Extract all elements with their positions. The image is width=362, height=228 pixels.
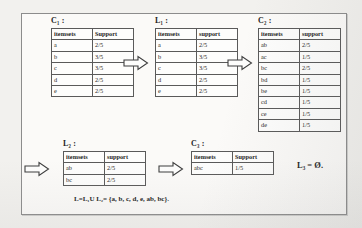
table-row: de1/5 [259, 120, 341, 131]
header-support: Support [93, 29, 134, 40]
cell-support: 2/5 [197, 74, 238, 85]
header-itemsets: itemsets [192, 152, 233, 163]
cell-support: 2/5 [93, 74, 134, 85]
header-support: support [105, 152, 146, 163]
group-c2: C₂ : itemsetssupportab2/5ac1/5bc2/5bd1/5… [258, 17, 341, 132]
cell-itemset: de [259, 120, 300, 131]
label-c1: C₁ : [51, 17, 134, 25]
cell-itemset: ac [259, 51, 300, 62]
cell-support: 2/5 [300, 63, 341, 74]
header-itemsets: itemsets [52, 29, 93, 40]
table-header-row: itemsetsSupport [52, 29, 134, 40]
cell-itemset: cd [259, 97, 300, 108]
cell-support: 1/5 [300, 108, 341, 119]
table-header-row: itemsetssupport [259, 29, 341, 40]
table-row: ac1/5 [259, 51, 341, 62]
table-l2-body: itemsetssupportab2/5bc2/5 [64, 152, 146, 186]
cell-itemset: bd [259, 74, 300, 85]
cell-support: 2/5 [197, 40, 238, 51]
table-row: abc1/5 [192, 163, 274, 174]
cell-support: 1/5 [300, 120, 341, 131]
label-c2: C₂ : [258, 17, 341, 25]
table-row: ab2/5 [64, 163, 146, 174]
cell-support: 2/5 [93, 86, 134, 97]
table-l1-body: itemsetssupporta2/5b3/5c3/5d2/5e2/5 [156, 29, 238, 97]
cell-itemset: e [52, 86, 93, 97]
right-block-arrow-icon [123, 55, 149, 71]
arrow-l2-to-c3 [158, 161, 184, 181]
empty-result-label: L₃ = Ø. [297, 160, 323, 170]
cell-itemset: bc [64, 174, 105, 185]
cell-support: 1/5 [233, 163, 274, 174]
label-l1: L₁ : [155, 17, 238, 25]
cell-support: 2/5 [105, 163, 146, 174]
cell-support: 1/5 [300, 97, 341, 108]
table-row: b3/5 [156, 51, 238, 62]
diagram-frame: C₁ : itemsetsSupporta2/5b3/5c3/5d2/5e2/5… [21, 13, 347, 215]
cell-support: 1/5 [300, 74, 341, 85]
cell-itemset: ce [259, 108, 300, 119]
table-row: c3/5 [52, 63, 134, 74]
cell-support: 2/5 [300, 40, 341, 51]
cell-support: 2/5 [105, 174, 146, 185]
table-header-row: itemsetsSupport [192, 152, 274, 163]
table-row: b3/5 [52, 51, 134, 62]
table-row: d2/5 [52, 74, 134, 85]
table-row: bd1/5 [259, 74, 341, 85]
label-l2: L₂ : [63, 140, 146, 148]
cell-itemset: c [156, 63, 197, 74]
label-c3: C₃ : [191, 140, 274, 148]
header-support: support [300, 29, 341, 40]
cell-itemset: bc [259, 63, 300, 74]
arrow-l1-to-c2 [227, 55, 253, 75]
table-row: c3/5 [156, 63, 238, 74]
group-c1: C₁ : itemsetsSupporta2/5b3/5c3/5d2/5e2/5 [51, 17, 134, 97]
table-row: ce1/5 [259, 108, 341, 119]
header-itemsets: itemsets [156, 29, 197, 40]
arrow-c1-to-l1 [123, 55, 149, 75]
table-c3-body: itemsetsSupportabc1/5 [192, 152, 274, 175]
union-formula: L=L₁U L₂= {a, b, c, d, e, ab, bc}. [74, 195, 169, 203]
cell-support: 2/5 [197, 86, 238, 97]
table-header-row: itemsetssupport [64, 152, 146, 163]
group-l1: L₁ : itemsetssupporta2/5b3/5c3/5d2/5e2/5 [155, 17, 238, 97]
cell-itemset: b [52, 51, 93, 62]
cell-itemset: c [52, 63, 93, 74]
cell-support: 1/5 [300, 51, 341, 62]
table-header-row: itemsetssupport [156, 29, 238, 40]
header-support: support [197, 29, 238, 40]
right-block-arrow-icon [24, 161, 50, 177]
arrow-c2-to-l2 [24, 161, 50, 181]
table-row: a2/5 [52, 40, 134, 51]
right-block-arrow-icon [158, 161, 184, 177]
table-c1: itemsetsSupporta2/5b3/5c3/5d2/5e2/5 [51, 28, 134, 97]
right-block-arrow-icon [227, 55, 253, 71]
table-l2: itemsetssupportab2/5bc2/5 [63, 151, 146, 186]
table-c1-body: itemsetsSupporta2/5b3/5c3/5d2/5e2/5 [52, 29, 134, 97]
cell-itemset: ab [64, 163, 105, 174]
table-row: bc2/5 [64, 174, 146, 185]
table-row: be1/5 [259, 86, 341, 97]
cell-support: 1/5 [300, 86, 341, 97]
cell-itemset: be [259, 86, 300, 97]
header-itemsets: itemsets [259, 29, 300, 40]
header-support: Support [233, 152, 274, 163]
cell-itemset: d [52, 74, 93, 85]
cell-itemset: d [156, 74, 197, 85]
table-c2-body: itemsetssupportab2/5ac1/5bc2/5bd1/5be1/5… [259, 29, 341, 132]
cell-itemset: e [156, 86, 197, 97]
table-row: d2/5 [156, 74, 238, 85]
table-row: e2/5 [52, 86, 134, 97]
cell-itemset: abc [192, 163, 233, 174]
cell-itemset: b [156, 51, 197, 62]
table-row: ab2/5 [259, 40, 341, 51]
table-row: e2/5 [156, 86, 238, 97]
cell-itemset: a [156, 40, 197, 51]
group-c3: C₃ : itemsetsSupportabc1/5 [191, 140, 274, 175]
table-l1: itemsetssupporta2/5b3/5c3/5d2/5e2/5 [155, 28, 238, 97]
table-row: cd1/5 [259, 97, 341, 108]
header-itemsets: itemsets [64, 152, 105, 163]
cell-support: 2/5 [93, 40, 134, 51]
cell-itemset: ab [259, 40, 300, 51]
cell-itemset: a [52, 40, 93, 51]
